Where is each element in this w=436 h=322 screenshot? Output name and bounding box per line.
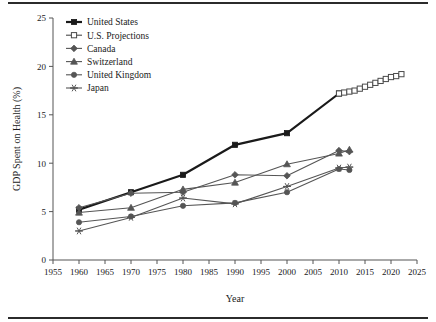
data-point <box>347 89 352 94</box>
series-line <box>79 167 349 231</box>
x-axis-tick-label: 1995 <box>252 267 271 277</box>
legend-marker <box>71 19 76 24</box>
y-axis-tick-label: 15 <box>37 110 47 120</box>
x-axis-title: Year <box>226 293 245 304</box>
y-axis-tick-label: 20 <box>37 62 47 72</box>
figure-container: 0510152025195519601965197019751980198519… <box>0 0 436 322</box>
data-point <box>180 172 185 177</box>
x-axis-tick-label: 2005 <box>304 267 323 277</box>
legend-marker <box>71 72 76 77</box>
y-axis-tick-label: 25 <box>37 13 47 23</box>
legend-marker <box>71 45 78 52</box>
data-point <box>388 74 393 79</box>
x-axis-tick-label: 2025 <box>408 267 427 277</box>
x-axis-tick-label: 2015 <box>356 267 375 277</box>
data-point <box>373 80 378 85</box>
data-point <box>284 131 289 136</box>
legend-label: United States <box>87 17 138 27</box>
x-axis-tick-label: 2000 <box>278 267 297 277</box>
data-point <box>232 172 239 179</box>
data-point <box>336 91 341 96</box>
y-axis-tick-label: 10 <box>37 159 47 169</box>
series-line <box>79 94 339 210</box>
legend-label: Canada <box>87 44 116 54</box>
data-point <box>378 78 383 83</box>
x-axis-tick-label: 1980 <box>174 267 193 277</box>
data-point <box>346 146 353 152</box>
data-point <box>399 72 404 77</box>
legend-marker <box>71 33 76 38</box>
y-axis-title: GDP Spent on Health (%) <box>11 87 23 191</box>
data-point <box>394 73 399 78</box>
series-line <box>79 150 349 213</box>
legend-label: United Kingdom <box>87 70 152 80</box>
y-axis-tick-label: 0 <box>42 255 47 265</box>
legend-label: Japan <box>87 83 109 93</box>
x-axis-tick-label: 1955 <box>44 267 63 277</box>
x-axis-tick-label: 1985 <box>200 267 219 277</box>
data-point <box>368 82 373 87</box>
data-point <box>284 172 291 179</box>
x-axis-tick-label: 1960 <box>70 267 89 277</box>
data-point <box>352 88 357 93</box>
x-axis-tick-label: 2020 <box>382 267 401 277</box>
x-axis-tick-label: 1975 <box>148 267 167 277</box>
data-point <box>232 142 237 147</box>
data-point <box>342 90 347 95</box>
y-axis-tick-label: 5 <box>42 207 47 217</box>
line-chart: 0510152025195519601965197019751980198519… <box>0 0 436 322</box>
x-axis-tick-label: 1965 <box>96 267 115 277</box>
data-point <box>284 190 289 195</box>
legend-label: Switzerland <box>87 57 133 67</box>
data-point <box>357 86 362 91</box>
data-point <box>362 84 367 89</box>
x-axis-tick-label: 1970 <box>122 267 141 277</box>
legend-label: U.S. Projections <box>87 31 149 41</box>
x-axis-tick-label: 2010 <box>330 267 349 277</box>
data-point <box>180 203 185 208</box>
data-point <box>383 76 388 81</box>
data-point <box>76 220 81 225</box>
x-axis-tick-label: 1990 <box>226 267 245 277</box>
